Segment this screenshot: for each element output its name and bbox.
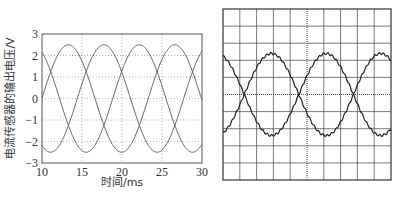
oscilloscope-chart <box>223 9 391 180</box>
y-tick-label: 2 <box>32 49 38 63</box>
x-tick-label: 25 <box>156 165 168 179</box>
y-tick-label: −2 <box>25 135 38 149</box>
y-tick-label: 0 <box>32 92 38 106</box>
y-tick-label: −1 <box>25 113 38 127</box>
x-tick-label: 30 <box>196 165 208 179</box>
y-tick-label: 3 <box>32 27 38 41</box>
x-tick-label: 15 <box>76 165 88 179</box>
left-chart: 10152025303210−1−2−3 <box>25 27 208 179</box>
y-tick-label: −3 <box>25 156 38 170</box>
y-tick-label: 1 <box>32 70 38 84</box>
y-axis-label: 电流传感器的输出电压/V <box>3 37 17 159</box>
x-axis-label: 时间/ms <box>101 176 143 189</box>
figure: 10152025303210−1−2−3 时间/ms 电流传感器的输出电压/V <box>0 0 406 198</box>
